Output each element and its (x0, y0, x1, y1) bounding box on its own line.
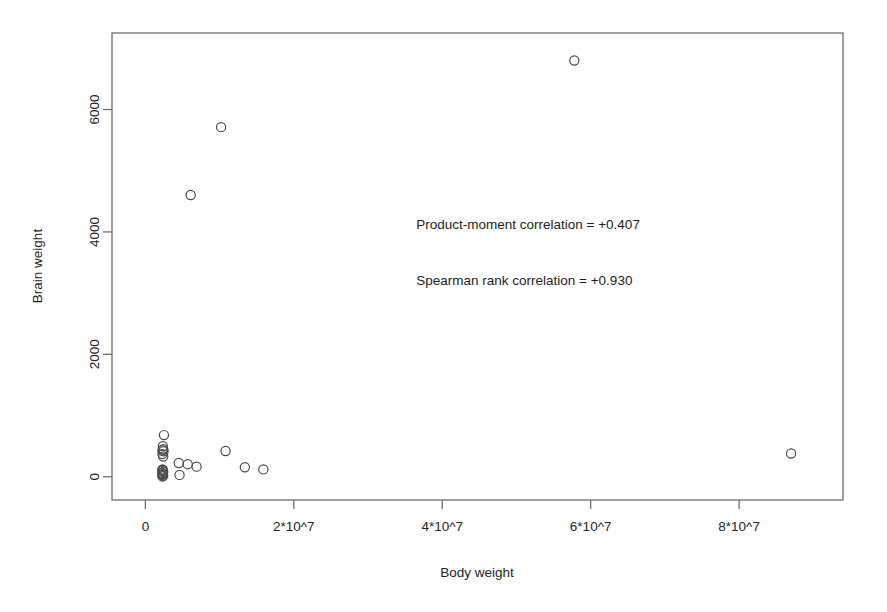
plot-border (112, 33, 843, 500)
y-tick-label-3: 6000 (87, 94, 102, 124)
x-tick-label-2: 4*10^7 (421, 519, 463, 534)
x-axis-title: Body weight (440, 565, 514, 580)
annotation-1: Spearman rank correlation = +0.930 (416, 273, 632, 288)
y-tick-label-2: 4000 (87, 217, 102, 247)
y-axis-title: Brain weight (30, 229, 45, 304)
data-point (186, 190, 195, 199)
x-tick-label-4: 8*10^7 (718, 519, 760, 534)
x-tick-label-3: 6*10^7 (570, 519, 612, 534)
chart-canvas: 02*10^74*10^76*10^78*10^7 0200040006000 … (0, 0, 887, 612)
y-tick-label-1: 2000 (87, 339, 102, 369)
data-point (175, 470, 184, 479)
data-point (159, 431, 168, 440)
x-tick-label-0: 0 (142, 519, 150, 534)
data-point (240, 463, 249, 472)
data-point (570, 56, 579, 65)
data-point (183, 460, 192, 469)
data-point (216, 123, 225, 132)
y-axis-ticks: 0200040006000 (87, 94, 112, 480)
data-point (174, 458, 183, 467)
data-point (786, 449, 795, 458)
annotation-0: Product-moment correlation = +0.407 (416, 217, 640, 232)
x-axis-ticks: 02*10^74*10^76*10^78*10^7 (142, 500, 760, 534)
data-point (259, 465, 268, 474)
data-points (158, 56, 796, 481)
plot-frame (112, 33, 843, 500)
chart-annotations: Product-moment correlation = +0.407Spear… (416, 217, 640, 288)
scatter-plot-figure: 02*10^74*10^76*10^78*10^7 0200040006000 … (0, 0, 887, 612)
y-tick-label-0: 0 (87, 473, 102, 481)
x-tick-label-1: 2*10^7 (273, 519, 315, 534)
data-point (192, 462, 201, 471)
data-point (221, 446, 230, 455)
